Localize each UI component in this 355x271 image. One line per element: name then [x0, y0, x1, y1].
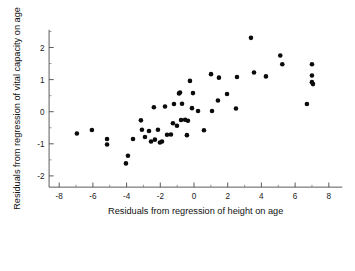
data-point — [278, 53, 283, 58]
y-axis-tick-label: 0 — [40, 108, 45, 117]
data-point — [179, 118, 184, 123]
data-point — [191, 91, 196, 96]
data-point — [252, 70, 257, 75]
data-point — [169, 132, 174, 137]
x-axis-tick-label: 0 — [192, 192, 197, 201]
data-point-group — [75, 36, 316, 166]
data-point — [105, 142, 110, 147]
y-axis-tick-label: -2 — [37, 172, 45, 181]
data-point — [178, 90, 183, 95]
data-point — [311, 82, 316, 87]
data-point — [143, 135, 148, 140]
data-point — [217, 75, 222, 80]
data-point — [216, 98, 221, 103]
data-point — [152, 105, 157, 110]
data-point — [172, 102, 177, 107]
x-axis-tick-label: 4 — [259, 192, 264, 201]
data-point — [75, 131, 80, 136]
y-axis-title: Residuals from regression of vital capac… — [13, 7, 23, 210]
x-axis-tick-label: 2 — [225, 192, 230, 201]
data-point — [105, 137, 110, 142]
data-point — [196, 109, 201, 114]
data-point — [186, 118, 191, 123]
data-point — [124, 161, 129, 166]
x-axis-tick-label: -2 — [157, 192, 165, 201]
data-point — [180, 101, 185, 106]
data-point — [305, 102, 310, 107]
y-axis-tick-label: 2 — [40, 44, 45, 53]
data-point — [264, 74, 269, 79]
plot-canvas: -8-6-4-202468-2-1012Residuals from regre… — [0, 0, 355, 271]
data-point — [249, 36, 254, 41]
data-point — [280, 62, 285, 67]
x-axis-tick-label: -4 — [123, 192, 131, 201]
data-point — [139, 118, 144, 123]
data-point — [185, 133, 190, 138]
data-point — [175, 124, 180, 129]
data-point — [160, 139, 165, 144]
data-point — [90, 128, 95, 133]
data-point — [126, 153, 131, 158]
data-point — [310, 73, 315, 78]
data-point — [156, 127, 161, 132]
data-point — [153, 137, 158, 142]
x-axis-tick-label: -8 — [56, 192, 64, 201]
x-axis-tick-label: 8 — [327, 192, 332, 201]
data-point — [310, 62, 315, 67]
data-point — [163, 104, 168, 109]
data-point — [140, 127, 145, 132]
x-axis-title: Residuals from regression of height on a… — [108, 206, 283, 216]
x-axis-tick-label: 6 — [293, 192, 298, 201]
data-point — [235, 75, 240, 80]
data-point — [188, 79, 193, 84]
data-point — [147, 129, 152, 134]
data-point — [209, 72, 214, 77]
x-axis-tick-label: -6 — [89, 192, 97, 201]
data-point — [234, 106, 239, 111]
data-point — [190, 106, 195, 111]
data-point — [225, 92, 230, 97]
data-point — [131, 137, 136, 142]
data-point — [202, 128, 207, 133]
y-axis-tick-label: 1 — [40, 76, 45, 85]
data-point — [171, 121, 176, 126]
data-point — [210, 109, 215, 114]
y-axis-tick-label: -1 — [37, 140, 45, 149]
scatter-plot-figure: -8-6-4-202468-2-1012Residuals from regre… — [0, 0, 355, 271]
